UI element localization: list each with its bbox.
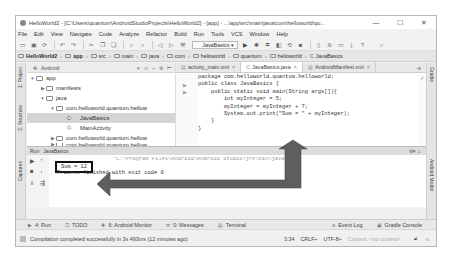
tree-item-package[interactable]: ▼ com.helloworld.quantum.hellow: [27, 103, 175, 113]
tab-activity-main-xml[interactable]: ▤ activity_main.xml ×: [176, 62, 241, 72]
stop-icon[interactable]: ■: [296, 41, 305, 49]
breadcrumb-item[interactable]: com›: [167, 53, 190, 59]
run-icon[interactable]: ▶: [241, 41, 250, 49]
find-icon[interactable]: ⌕: [127, 41, 136, 49]
tab-androidmanifest-xml[interactable]: ▥ AndroidManifest.xml ×: [303, 62, 376, 72]
bottom-tab-run[interactable]: ▶4: Run: [28, 222, 51, 228]
back-icon[interactable]: ◁: [156, 41, 165, 49]
tree-item-app[interactable]: ▼ app: [27, 73, 175, 83]
make-project-icon[interactable]: ⚒: [178, 41, 187, 49]
close-tab-icon[interactable]: ×: [232, 64, 235, 70]
dropdown-icon[interactable]: ▾: [137, 65, 140, 71]
console-output[interactable]: "C:\Program Files\Android\Android Studio…: [53, 157, 301, 177]
expand-arrow-icon[interactable]: ▼: [29, 76, 36, 81]
replace-icon[interactable]: ⌕: [138, 41, 147, 49]
up-icon[interactable]: ↑: [40, 157, 43, 163]
cut-icon[interactable]: ✂: [87, 41, 96, 49]
maximize-button[interactable]: ☐: [388, 16, 412, 29]
apply-changes-icon[interactable]: ⟲: [285, 41, 294, 49]
expand-arrow-icon[interactable]: ▶: [49, 136, 56, 141]
tree-item-mainactivity[interactable]: ©◦ MainActivity: [27, 123, 175, 133]
menu-analyze[interactable]: Analyze: [119, 31, 139, 37]
avd-manager-icon[interactable]: ▯: [314, 41, 323, 49]
menu-build[interactable]: Build: [174, 31, 186, 37]
tree-item-manifests[interactable]: ▶ manifests: [27, 83, 175, 93]
menu-help[interactable]: Help: [276, 31, 288, 37]
hide-icon[interactable]: ⊢: [167, 65, 171, 71]
hector-icon[interactable]: ☺: [424, 236, 430, 242]
code-content[interactable]: package com.helloworld.quantum.helloworl…: [198, 74, 419, 133]
file-encoding[interactable]: UTF-8÷: [324, 236, 342, 242]
line-separator[interactable]: CRLF÷: [300, 236, 317, 242]
attach-debugger-icon[interactable]: ◧: [274, 41, 283, 49]
menu-run[interactable]: Run: [194, 31, 204, 37]
expand-arrow-icon[interactable]: ▼: [49, 106, 56, 111]
pause-icon[interactable]: ॥: [30, 179, 34, 187]
breadcrumb-item[interactable]: src›: [91, 53, 111, 59]
down-icon[interactable]: ↓: [40, 168, 43, 174]
tree-item-java[interactable]: ▼ java: [27, 93, 175, 103]
cursor-position[interactable]: 3:34: [284, 236, 295, 242]
tab-javabasics-java[interactable]: C JavaBasics.java ×: [241, 62, 303, 72]
bottom-tab-terminal[interactable]: ▤Terminal: [218, 222, 246, 228]
breadcrumb-item[interactable]: app›: [65, 53, 87, 59]
breadcrumb-item[interactable]: CJavaBasics: [310, 53, 343, 59]
run-config-tab[interactable]: JavaBasics: [43, 148, 68, 154]
forward-icon[interactable]: ▷: [167, 41, 176, 49]
help-icon[interactable]: ?: [358, 41, 367, 49]
lock-icon[interactable]: 🔓︎: [414, 235, 418, 242]
bottom-tab-event-log[interactable]: ≡Event Log: [332, 222, 362, 228]
menu-file[interactable]: File: [18, 31, 27, 37]
bottom-tab-gradle-console[interactable]: ▣Gradle Console: [377, 222, 422, 228]
menu-refactor[interactable]: Refactor: [146, 31, 167, 37]
breadcrumb-item[interactable]: java›: [141, 53, 164, 59]
run-gutter-icon[interactable]: ▶: [183, 83, 187, 88]
breadcrumb-item[interactable]: main›: [114, 53, 138, 59]
tool-tab-captures[interactable]: Captures: [17, 161, 23, 181]
minimize-button[interactable]: —: [364, 16, 388, 29]
breadcrumb-item[interactable]: helloworld›: [193, 53, 230, 59]
run-gutter-icon[interactable]: ▶: [183, 90, 187, 95]
menu-navigate[interactable]: Navigate: [70, 31, 92, 37]
close-tab-icon[interactable]: ×: [294, 64, 297, 70]
profile-icon[interactable]: ≐: [263, 41, 272, 49]
rerun-icon[interactable]: ▶: [30, 157, 35, 164]
menu-window[interactable]: Window: [249, 31, 269, 37]
soft-wrap-icon[interactable]: ⇶: [40, 179, 45, 186]
save-icon[interactable]: ▣: [29, 41, 38, 49]
paste-icon[interactable]: ❏: [109, 41, 118, 49]
menu-edit[interactable]: Edit: [34, 31, 44, 37]
menu-tools[interactable]: Tools: [211, 31, 224, 37]
tree-item-javabasics[interactable]: C◦ JavaBasics: [27, 113, 175, 123]
gear-icon[interactable]: ⚙▾ ⊥: [409, 148, 421, 154]
close-tab-icon[interactable]: ×: [367, 64, 370, 70]
status-toggle-icon[interactable]: [20, 236, 26, 242]
sync-icon[interactable]: ⊙: [144, 65, 148, 71]
expand-arrow-icon[interactable]: ▶: [39, 86, 46, 91]
sync-icon[interactable]: ⟳: [40, 41, 49, 49]
search-everywhere-icon[interactable]: ⌕: [377, 41, 386, 49]
debug-icon[interactable]: ✱: [252, 41, 261, 49]
menu-code[interactable]: Code: [99, 31, 112, 37]
menu-view[interactable]: View: [51, 31, 63, 37]
tool-tab-project[interactable]: 1: Project: [17, 67, 23, 88]
tree-item-package[interactable]: ▶ com.helloworld.quantum.hellow: [27, 133, 175, 143]
tool-tab-gradle[interactable]: Gradle: [429, 67, 435, 82]
breadcrumb-item[interactable]: helloworld›: [270, 53, 307, 59]
tab-list-button[interactable]: -≡: [416, 65, 421, 71]
gear-icon[interactable]: ⚙: [159, 65, 163, 71]
collapse-icon[interactable]: ÷: [152, 65, 155, 71]
stop-icon[interactable]: ■: [30, 168, 34, 174]
sdk-manager-icon[interactable]: ⤓: [347, 41, 356, 49]
menu-vcs[interactable]: VCS: [231, 31, 243, 37]
open-icon[interactable]: ▭: [18, 41, 27, 49]
tool-tab-structure[interactable]: 2: Structure: [17, 105, 23, 131]
breadcrumb-item[interactable]: HelloWorld2›: [18, 53, 62, 59]
bottom-tab-android-monitor[interactable]: ✚6: Android Monitor: [101, 222, 152, 228]
project-view-select[interactable]: Android: [41, 65, 60, 71]
project-structure-icon[interactable]: ▭: [336, 41, 345, 49]
breadcrumb-item[interactable]: quantum›: [233, 53, 267, 59]
expand-arrow-icon[interactable]: ▼: [39, 96, 46, 101]
close-button[interactable]: ✕: [412, 16, 436, 29]
copy-icon[interactable]: ❐: [98, 41, 107, 49]
